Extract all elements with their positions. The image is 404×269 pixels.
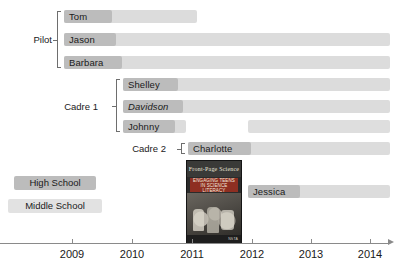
axis-tick-label-2014: 2014 [358,248,382,260]
legend-middle-school: Middle School [8,199,102,213]
bracket-spine [116,79,117,132]
book-title-band: ENGAGING TEENS IN SCIENCE LITERACY [190,178,238,192]
bracket-spine [57,11,58,68]
axis-tick-label-2011: 2011 [180,248,204,260]
legend-high-school: High School [14,176,96,190]
axis-tick-label-2013: 2013 [299,248,323,260]
bracket-tip-top [57,11,61,12]
book-photo-figure [207,207,219,233]
book-title-text: ENGAGING TEENS IN SCIENCE LITERACY [190,178,238,193]
book-cover-thumbnail: Front-Page Science ENGAGING TEENS IN SCI… [186,160,242,244]
bar-label-chip-davidson: Davidson [123,100,183,113]
bar-johnny-segment-2 [248,120,390,133]
book-masthead-text: Front-Page Science [189,166,239,172]
bar-label-chip-jason: Jason [64,33,116,46]
axis-tick-2010 [132,239,133,244]
bar-label-jason: Jason [69,33,95,46]
axis-tick-label-2010: 2010 [120,248,144,260]
bar-label-chip-johnny: Johnny [123,120,175,133]
axis-tick-2014 [370,239,371,244]
book-photo-figure [221,210,234,230]
bar-label-chip-tom: Tom [64,10,112,23]
bar-label-charlotte: Charlotte [193,142,232,155]
bar-label-chip-charlotte: Charlotte [188,142,251,155]
bracket-tip-top [181,143,185,144]
gantt-timeline-chart: TomJasonBarbaraShelleyDavidsonJohnnyChar… [0,0,404,269]
book-footer-band: NSTA [187,235,241,243]
axis-tick-label-2012: 2012 [240,248,264,260]
legend-middle-school-label: Middle School [25,199,85,213]
bracket-tip-bottom [181,153,185,154]
bar-label-johnny: Johnny [128,120,159,133]
group-label-cadre-2: Cadre 2 [118,143,166,154]
x-axis-line [0,243,390,244]
bar-label-chip-jessica: Jessica [248,185,300,198]
bar-label-chip-shelley: Shelley [123,78,178,91]
bar-label-chip-barbara: Barbara [64,56,122,69]
book-publisher-text: NSTA [228,237,241,241]
bracket-tip-bottom [57,67,61,68]
bracket-stem [177,149,181,150]
group-label-pilot: Pilot [10,34,52,45]
legend-high-school-label: High School [29,176,80,190]
book-masthead-band: Front-Page Science [187,161,241,177]
bracket-tip-bottom [116,131,120,132]
bracket-tip-top [116,79,120,80]
bar-label-davidson: Davidson [128,100,168,113]
book-photo-figure [193,209,204,231]
group-label-cadre-1: Cadre 1 [50,101,98,112]
bar-label-barbara: Barbara [69,56,104,69]
bar-label-jessica: Jessica [253,185,285,198]
axis-tick-2013 [311,239,312,244]
axis-tick-2011 [192,239,193,244]
x-axis-arrow-icon [388,239,394,245]
book-cover-photo [187,193,241,235]
axis-tick-2009 [72,239,73,244]
bracket-stem [53,40,57,41]
bracket-stem [112,106,116,107]
axis-tick-label-2009: 2009 [60,248,84,260]
bar-label-tom: Tom [69,10,87,23]
bar-label-shelley: Shelley [128,78,160,91]
axis-tick-2012 [252,239,253,244]
